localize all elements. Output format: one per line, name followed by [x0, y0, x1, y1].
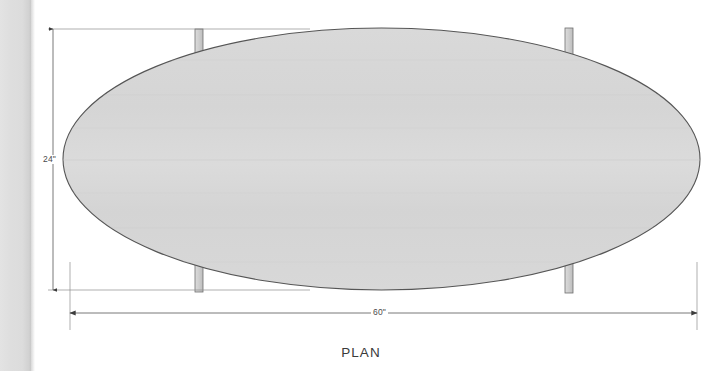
- plan-drawing-page: 24" 60" PLAN: [0, 0, 722, 371]
- width-dimension-label: 60": [371, 308, 388, 317]
- plan-drawing-canvas: [0, 0, 722, 371]
- view-title: PLAN: [0, 345, 722, 360]
- height-dimension-label: 24": [41, 155, 58, 164]
- elliptical-tabletop: [63, 28, 700, 290]
